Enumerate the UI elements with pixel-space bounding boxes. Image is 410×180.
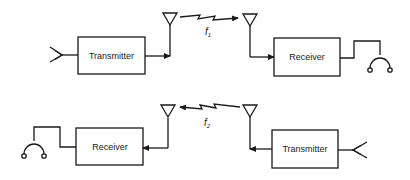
antenna-icon xyxy=(243,105,257,117)
headphones-icon xyxy=(368,58,392,72)
lightning-wave-icon xyxy=(180,15,238,20)
transmitter-bottom-label: Transmitter xyxy=(282,144,327,154)
radio-link-diagram: Transmitter f1 Receiver xyxy=(0,0,410,180)
receiver-top-label: Receiver xyxy=(289,52,325,62)
transmitter-top-label: Transmitter xyxy=(89,51,134,61)
receiver-bottom-label: Receiver xyxy=(92,142,128,152)
antenna-icon xyxy=(163,13,177,25)
top-link: Transmitter f1 Receiver xyxy=(50,13,392,76)
receiver-bottom: Receiver xyxy=(76,128,143,165)
transmitter-top: Transmitter xyxy=(78,37,145,74)
frequency-label-f1: f1 xyxy=(205,26,211,38)
headphones-icon xyxy=(22,144,46,158)
antenna-icon xyxy=(161,105,175,117)
frequency-label-f2: f2 xyxy=(204,117,211,129)
microphone-icon xyxy=(353,142,367,158)
receiver-to-headphones-wire xyxy=(340,41,380,58)
bottom-link: Receiver f2 Transmitter xyxy=(22,104,367,168)
lightning-wave-icon xyxy=(180,104,240,109)
antenna-icon xyxy=(243,14,257,26)
headphones-to-receiver-wire xyxy=(34,127,76,147)
receiver-top: Receiver xyxy=(274,38,340,76)
transmitter-bottom: Transmitter xyxy=(272,130,338,168)
microphone-icon xyxy=(50,47,62,62)
